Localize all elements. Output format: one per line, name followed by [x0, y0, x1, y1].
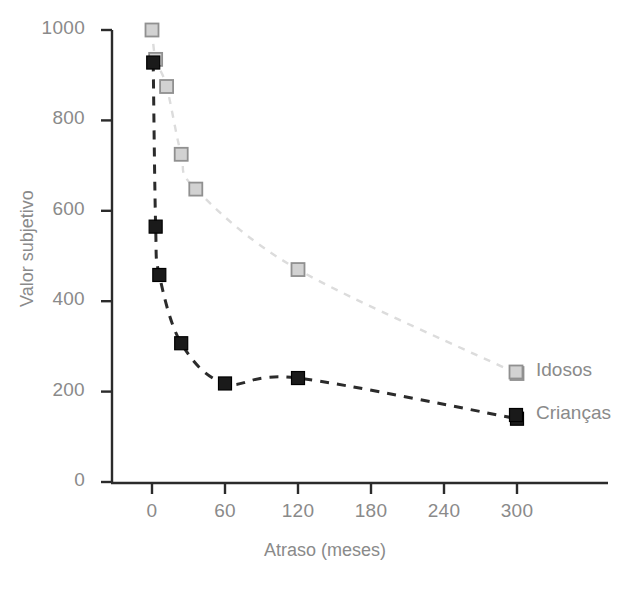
y-axis-title: Valor subjetivo [17, 159, 38, 339]
data-point-crianças-5 [292, 372, 305, 385]
x-tick-label: 180 [341, 500, 401, 522]
y-tick-label: 200 [5, 379, 85, 401]
data-point-idosos-3 [175, 148, 188, 161]
data-point-crianças-0 [147, 56, 160, 69]
data-point-crianças-3 [175, 337, 188, 350]
x-tick-label: 0 [122, 500, 182, 522]
data-point-idosos-5 [292, 263, 305, 276]
x-tick-label: 300 [487, 500, 547, 522]
axis-lines [111, 30, 608, 483]
data-point-idosos-2 [160, 80, 173, 93]
chart-container: Valor subjetivo Atraso (meses) 020040060… [0, 0, 636, 589]
x-axis-title: Atraso (meses) [175, 540, 475, 561]
x-tick-label: 60 [195, 500, 255, 522]
series-line-crianças [153, 63, 517, 419]
y-tick-label: 400 [5, 288, 85, 310]
data-point-crianças-4 [219, 377, 232, 390]
y-axis-ticks [101, 30, 112, 482]
y-tick-label: 800 [5, 107, 85, 129]
series-trend-lines [152, 30, 517, 419]
legend-marker-crianças [510, 409, 523, 422]
series-line-idosos [152, 30, 517, 374]
y-tick-label: 1000 [5, 17, 85, 39]
legend-markers [510, 366, 523, 422]
legend-label-idosos: Idosos [536, 359, 592, 381]
y-tick-label: 0 [5, 469, 85, 491]
legend-label-crianças: Crianças [536, 402, 611, 424]
legend-marker-idosos [510, 366, 523, 379]
series-data-markers [146, 24, 524, 426]
x-axis-ticks [152, 483, 517, 494]
y-tick-label: 600 [5, 198, 85, 220]
data-point-crianças-1 [149, 220, 162, 233]
x-tick-label: 240 [414, 500, 474, 522]
data-point-idosos-0 [146, 24, 159, 37]
data-point-idosos-4 [189, 183, 202, 196]
data-point-crianças-2 [153, 268, 166, 281]
x-tick-label: 120 [268, 500, 328, 522]
